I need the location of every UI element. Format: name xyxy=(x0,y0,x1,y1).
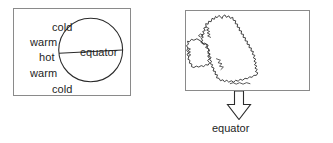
globe-panel: equator cold warm hot warm cold xyxy=(13,8,131,96)
south-coast-detail xyxy=(230,83,250,84)
great-britain-west-coast-detail xyxy=(206,27,210,37)
wales-peninsula-detail xyxy=(217,59,224,70)
ireland-outline xyxy=(186,39,209,68)
zone-label-hot: hot xyxy=(39,51,55,63)
british-isles-map xyxy=(186,11,309,90)
zone-label-north-warm: warm xyxy=(30,36,57,48)
globe-equator-label: equator xyxy=(80,46,117,58)
arrow-equator-caption: equator xyxy=(212,122,249,134)
diagram-canvas: equator cold warm hot warm cold colder w… xyxy=(0,0,333,143)
british-isles-panel: colder warmer xyxy=(185,10,310,91)
down-arrow-icon xyxy=(226,91,252,120)
great-britain-outline xyxy=(201,15,258,82)
zone-label-south-cold: cold xyxy=(52,83,73,95)
zone-label-north-cold: cold xyxy=(52,21,73,33)
zone-label-south-warm: warm xyxy=(30,67,57,79)
down-arrow-shape xyxy=(228,91,251,120)
